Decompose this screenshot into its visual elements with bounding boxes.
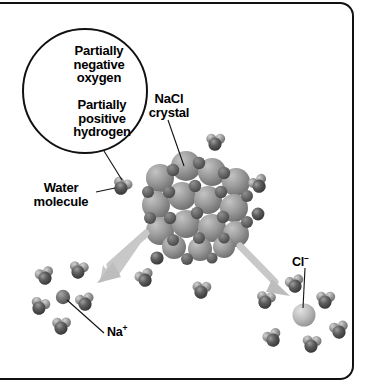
- label-water-molecule: Water molecule: [28, 181, 94, 208]
- label-partially-negative-oxygen: Partially negative oxygen: [60, 44, 138, 85]
- label-chloride-ion: Cl–: [292, 256, 309, 269]
- label-nacl-crystal: NaCl crystal: [140, 92, 198, 119]
- leader-water-molecule: [96, 188, 115, 192]
- water-molecule-crystal-right-lower: [252, 208, 265, 221]
- chloride-ion-charge: –: [304, 253, 309, 263]
- label-partially-positive-hydrogen: Partially positive hydrogen: [62, 98, 142, 139]
- chloride-hydration-shell: [254, 274, 349, 355]
- label-sodium-ion: Na+: [107, 326, 127, 339]
- free-water-oxygen: [150, 251, 163, 264]
- sodium-ion-charge: +: [123, 323, 128, 333]
- chloride-ion-symbol: Cl: [292, 255, 304, 269]
- nacl-crystal: [142, 151, 253, 265]
- sodium-ion-symbol: Na: [107, 325, 123, 339]
- arrow-to-chloride: [240, 246, 290, 296]
- water-molecule-crystal-top: [205, 132, 226, 152]
- chloride-ion-sphere: [293, 304, 316, 327]
- leader-inset-to-water: [104, 151, 122, 180]
- water-molecule-attached-left: [110, 174, 135, 198]
- figure-dissolution-of-nacl: Partially negative oxygen Partially posi…: [0, 0, 372, 389]
- sodium-ion-sphere: [56, 290, 70, 304]
- leader-chloride: [303, 268, 305, 308]
